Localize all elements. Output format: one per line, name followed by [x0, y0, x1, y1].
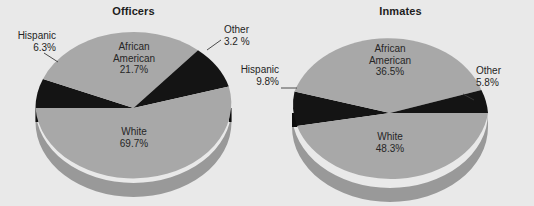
slice-label-name: Hispanic — [0, 30, 56, 42]
slice-label-hispanic-inmates: Hispanic 9.8% — [221, 64, 279, 87]
slice-label-name: Other — [224, 24, 272, 36]
slice-label-name: Other — [476, 65, 526, 77]
pie-chart-figure: Officers African — [0, 0, 534, 206]
chart-panel-inmates: Inmates African American 36.5% — [267, 0, 534, 206]
leader-line-hispanic-officers — [44, 53, 58, 62]
slice-label-other-officers: Other 3.2 % — [224, 24, 272, 47]
slice-label-value: 6.3% — [0, 42, 56, 54]
pie-3d-inmates — [267, 0, 534, 206]
slice-label-value: 3.2 % — [224, 36, 272, 48]
slice-label-name: Hispanic — [221, 64, 279, 76]
slice-label-other-inmates: Other 5.8% — [476, 65, 526, 88]
slice-label-hispanic-officers: Hispanic 6.3% — [0, 30, 56, 53]
slice-label-value: 5.8% — [476, 77, 526, 89]
slice-label-value: 9.8% — [221, 76, 279, 88]
chart-panel-officers: Officers African — [0, 0, 267, 206]
leader-line-other-officers — [207, 40, 221, 50]
